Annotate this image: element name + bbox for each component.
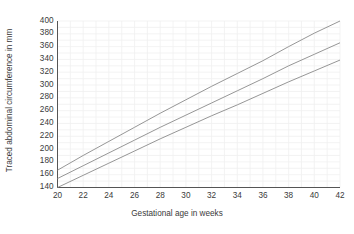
x-axis-title: Gestational age in weeks bbox=[0, 209, 354, 218]
x-tick-label: 38 bbox=[279, 191, 299, 200]
x-tick-label: 34 bbox=[227, 191, 247, 200]
y-tick-label: 340 bbox=[32, 54, 54, 63]
y-tick-label: 280 bbox=[32, 92, 54, 101]
gridlines-group bbox=[58, 21, 341, 188]
y-tick-label: 260 bbox=[32, 105, 54, 114]
y-tick-label: 180 bbox=[32, 156, 54, 165]
y-tick-label: 360 bbox=[32, 41, 54, 50]
y-tick-label: 380 bbox=[32, 28, 54, 37]
x-tick-label: 32 bbox=[202, 191, 222, 200]
x-tick-label: 26 bbox=[125, 191, 145, 200]
y-tick-label: 320 bbox=[32, 67, 54, 76]
x-tick-label: 42 bbox=[330, 191, 350, 200]
chart-figure: Traced abdominal circumference in mm Ges… bbox=[0, 0, 354, 234]
y-tick-label: 400 bbox=[32, 16, 54, 25]
x-tick-label: 40 bbox=[304, 191, 324, 200]
y-tick-label: 160 bbox=[32, 169, 54, 178]
x-tick-label: 20 bbox=[48, 191, 68, 200]
y-tick-label: 200 bbox=[32, 144, 54, 153]
x-tick-label: 24 bbox=[99, 191, 119, 200]
y-tick-label: 220 bbox=[32, 131, 54, 140]
y-tick-label: 240 bbox=[32, 118, 54, 127]
x-tick-label: 36 bbox=[253, 191, 273, 200]
x-tick-label: 30 bbox=[176, 191, 196, 200]
y-tick-label: 300 bbox=[32, 80, 54, 89]
x-tick-label: 28 bbox=[150, 191, 170, 200]
x-tick-label: 22 bbox=[73, 191, 93, 200]
